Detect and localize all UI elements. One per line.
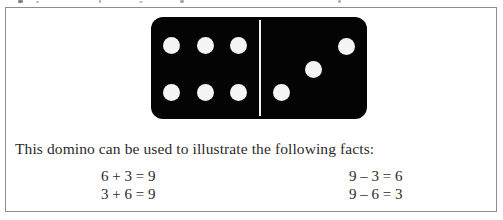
pip: [230, 84, 247, 101]
domino-right-half: [259, 17, 367, 119]
fact-addition: 3 + 6 = 9: [101, 186, 155, 203]
fact-subtraction: 9 – 3 = 6: [349, 168, 402, 185]
pip: [197, 37, 214, 54]
pip: [305, 61, 322, 78]
domino-left-half: [151, 17, 259, 119]
fact-addition: 6 + 3 = 9: [101, 168, 155, 185]
fact-subtraction: 9 – 6 = 3: [349, 186, 402, 203]
fact-row: 3 + 6 = 9 9 – 6 = 3: [6, 186, 498, 204]
pip: [197, 84, 214, 101]
caption-text: This domino can be used to illustrate th…: [15, 140, 374, 158]
text-fragment: [180, 0, 184, 3]
text-fragment: [36, 1, 39, 3]
fact-row: 6 + 3 = 9 9 – 3 = 6: [6, 168, 498, 186]
figure-frame: This domino can be used to illustrate th…: [5, 7, 497, 212]
pip: [338, 38, 355, 55]
text-fragment: [139, 1, 143, 3]
text-fragment: [18, 0, 23, 3]
cropped-text-remnants: [0, 0, 503, 6]
pip: [163, 84, 180, 101]
pip: [230, 37, 247, 54]
domino-tile: [151, 17, 367, 119]
pip: [273, 84, 290, 101]
facts-list: 6 + 3 = 9 9 – 3 = 6 3 + 6 = 9 9 – 6 = 3: [6, 168, 498, 204]
text-fragment: [99, 0, 101, 3]
pip: [163, 37, 180, 54]
text-fragment: [338, 0, 341, 3]
